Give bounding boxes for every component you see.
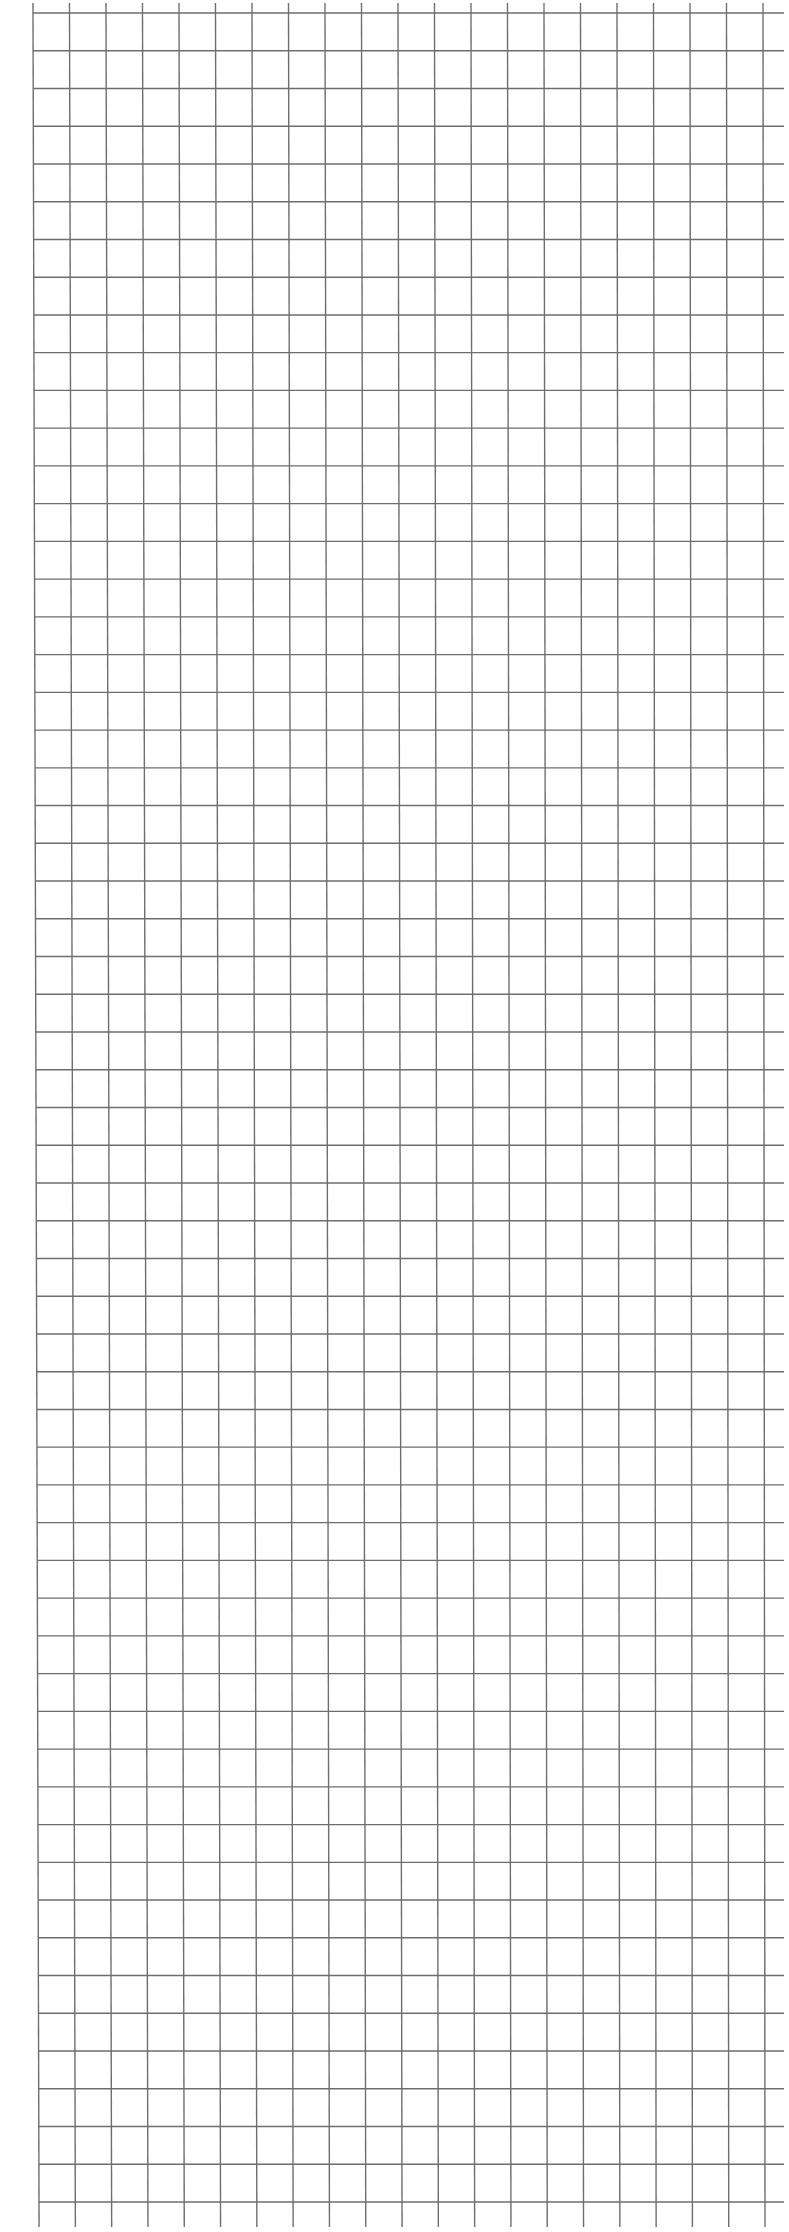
vertical-grid-line [544, 3, 547, 2227]
grid-paper [0, 0, 789, 2232]
vertical-grid-line [179, 3, 184, 2227]
vertical-grid-line [142, 3, 147, 2227]
vertical-grid-line [434, 3, 438, 2227]
vertical-grid-lines [33, 3, 765, 2227]
vertical-grid-line [325, 3, 329, 2227]
vertical-grid-line [617, 3, 620, 2227]
vertical-grid-line [726, 3, 728, 2227]
vertical-grid-line [69, 3, 75, 2227]
vertical-grid-line [106, 3, 112, 2227]
vertical-grid-line [252, 3, 257, 2227]
vertical-grid-line [361, 3, 365, 2227]
horizontal-grid-lines [33, 13, 784, 2202]
vertical-grid-line [215, 3, 220, 2227]
vertical-grid-line [580, 3, 583, 2227]
vertical-grid-line [763, 3, 765, 2227]
vertical-grid-line [288, 3, 293, 2227]
vertical-grid-line [690, 3, 692, 2227]
vertical-grid-line [507, 3, 510, 2227]
vertical-grid-line [33, 3, 39, 2227]
vertical-grid-line [653, 3, 656, 2227]
vertical-grid-line [398, 3, 402, 2227]
vertical-grid-line [471, 3, 475, 2227]
